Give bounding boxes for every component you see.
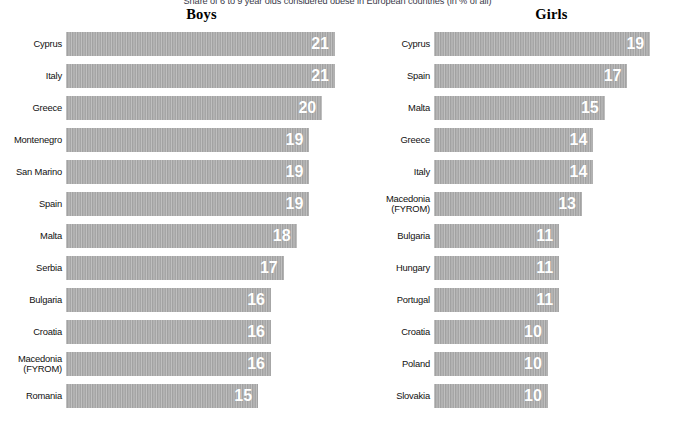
chart-row: Montenegro19 bbox=[0, 128, 345, 160]
bar-boys-2: 20 bbox=[66, 96, 322, 120]
bar-value-boys-11: 15 bbox=[234, 388, 252, 404]
category-label-girls-0: Cyprus bbox=[370, 32, 430, 56]
bar-area: 19 bbox=[66, 192, 335, 216]
bar-girls-10: 10 bbox=[434, 352, 548, 376]
bar-boys-1: 21 bbox=[66, 64, 335, 88]
category-label-girls-10: Poland bbox=[370, 352, 430, 376]
bar-area: 14 bbox=[434, 160, 673, 184]
bar-boys-0: 21 bbox=[66, 32, 335, 56]
bar-value-boys-8: 16 bbox=[247, 292, 265, 308]
bar-area: 11 bbox=[434, 256, 673, 280]
bar-area: 11 bbox=[434, 224, 673, 248]
category-label-boys-4: San Marino bbox=[0, 160, 62, 184]
category-label-boys-11: Romania bbox=[0, 384, 62, 408]
chart-row: Malta18 bbox=[0, 224, 345, 256]
bar-value-girls-4: 14 bbox=[570, 164, 588, 180]
bar-girls-8: 11 bbox=[434, 288, 559, 312]
bar-boys-9: 16 bbox=[66, 320, 271, 344]
chart-row: Italy21 bbox=[0, 64, 345, 96]
chart-row: Spain19 bbox=[0, 192, 345, 224]
chart-row: Malta15 bbox=[370, 96, 675, 128]
bar-area: 17 bbox=[66, 256, 335, 280]
bar-value-girls-1: 17 bbox=[604, 68, 622, 84]
bar-value-boys-0: 21 bbox=[311, 36, 329, 52]
bar-value-boys-3: 19 bbox=[286, 132, 304, 148]
chart-row: Croatia16 bbox=[0, 320, 345, 352]
bar-area: 15 bbox=[66, 384, 335, 408]
bar-boys-5: 19 bbox=[66, 192, 309, 216]
bar-area: 11 bbox=[434, 288, 673, 312]
chart-row: Slovakia10 bbox=[370, 384, 675, 416]
bar-girls-11: 10 bbox=[434, 384, 548, 408]
bar-value-girls-2: 15 bbox=[581, 100, 599, 116]
category-label-boys-7: Serbia bbox=[0, 256, 62, 280]
bar-boys-7: 17 bbox=[66, 256, 284, 280]
bar-value-girls-10: 10 bbox=[524, 356, 542, 372]
bar-boys-3: 19 bbox=[66, 128, 309, 152]
bar-area: 16 bbox=[66, 352, 335, 376]
panel-boys-rows: Cyprus21Italy21Greece20Montenegro19San M… bbox=[0, 32, 345, 416]
bar-boys-8: 16 bbox=[66, 288, 271, 312]
category-label-girls-11: Slovakia bbox=[370, 384, 430, 408]
bar-value-boys-9: 16 bbox=[247, 324, 265, 340]
chart-row: Bulgaria11 bbox=[370, 224, 675, 256]
bar-value-girls-5: 13 bbox=[558, 196, 576, 212]
bar-area: 19 bbox=[434, 32, 673, 56]
bar-value-girls-3: 14 bbox=[570, 132, 588, 148]
bar-area: 19 bbox=[66, 128, 335, 152]
category-label-boys-10: Macedonia(FYROM) bbox=[0, 352, 62, 376]
chart-panels: Boys Cyprus21Italy21Greece20Montenegro19… bbox=[0, 0, 675, 422]
category-label-girls-5: Macedonia(FYROM) bbox=[370, 192, 430, 216]
category-label-boys-0: Cyprus bbox=[0, 32, 62, 56]
chart-row: Croatia10 bbox=[370, 320, 675, 352]
bar-value-boys-6: 18 bbox=[273, 228, 291, 244]
panel-girls-title: Girls bbox=[370, 6, 675, 23]
bar-value-girls-8: 11 bbox=[536, 292, 553, 308]
chart-row: Serbia17 bbox=[0, 256, 345, 288]
chart-row: Cyprus21 bbox=[0, 32, 345, 64]
category-label-boys-6: Malta bbox=[0, 224, 62, 248]
chart-row: Portugal11 bbox=[370, 288, 675, 320]
bar-area: 20 bbox=[66, 96, 335, 120]
bar-girls-0: 19 bbox=[434, 32, 650, 56]
chart-row: Macedonia(FYROM)13 bbox=[370, 192, 675, 224]
bar-girls-6: 11 bbox=[434, 224, 559, 248]
bar-boys-6: 18 bbox=[66, 224, 297, 248]
bar-value-girls-6: 11 bbox=[536, 228, 553, 244]
chart-row: Bulgaria16 bbox=[0, 288, 345, 320]
chart-row: Greece20 bbox=[0, 96, 345, 128]
bar-area: 16 bbox=[66, 288, 335, 312]
chart-row: Macedonia(FYROM)16 bbox=[0, 352, 345, 384]
bar-value-boys-2: 20 bbox=[298, 100, 316, 116]
chart-row: Greece14 bbox=[370, 128, 675, 160]
panel-boys: Boys Cyprus21Italy21Greece20Montenegro19… bbox=[0, 0, 345, 422]
bar-area: 15 bbox=[434, 96, 673, 120]
category-label-girls-7: Hungary bbox=[370, 256, 430, 280]
chart-row: Italy14 bbox=[370, 160, 675, 192]
category-label-boys-1: Italy bbox=[0, 64, 62, 88]
chart-row: Spain17 bbox=[370, 64, 675, 96]
bar-value-boys-7: 17 bbox=[260, 260, 278, 276]
category-label-girls-2: Malta bbox=[370, 96, 430, 120]
bar-area: 10 bbox=[434, 384, 673, 408]
bar-area: 21 bbox=[66, 64, 335, 88]
chart-row: Cyprus19 bbox=[370, 32, 675, 64]
chart-row: San Marino19 bbox=[0, 160, 345, 192]
bar-girls-2: 15 bbox=[434, 96, 605, 120]
bar-value-boys-10: 16 bbox=[247, 356, 265, 372]
category-label-boys-2: Greece bbox=[0, 96, 62, 120]
bar-area: 16 bbox=[66, 320, 335, 344]
panel-girls: Girls Cyprus19Spain17Malta15Greece14Ital… bbox=[370, 0, 675, 422]
category-label-boys-8: Bulgaria bbox=[0, 288, 62, 312]
category-label-boys-9: Croatia bbox=[0, 320, 62, 344]
bar-boys-4: 19 bbox=[66, 160, 309, 184]
bar-area: 18 bbox=[66, 224, 335, 248]
bar-boys-11: 15 bbox=[66, 384, 258, 408]
bar-area: 10 bbox=[434, 352, 673, 376]
panel-girls-rows: Cyprus19Spain17Malta15Greece14Italy14Mac… bbox=[370, 32, 675, 416]
bar-value-girls-11: 10 bbox=[524, 388, 542, 404]
chart-root: Share of 6 to 9 year olds considered obe… bbox=[0, 0, 675, 422]
bar-area: 14 bbox=[434, 128, 673, 152]
bar-girls-3: 14 bbox=[434, 128, 593, 152]
bar-girls-1: 17 bbox=[434, 64, 627, 88]
